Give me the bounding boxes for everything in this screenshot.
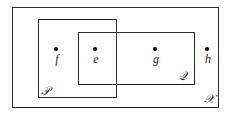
point-g-label: g [150,53,162,65]
set-p-label: 𝒫 [41,85,50,97]
point-f-label: f [51,53,63,65]
point-dot [153,47,157,51]
point-dot [205,47,209,51]
point-h-label: h [202,53,214,65]
set-q-label: 𝒬 [178,70,187,82]
point-e-label: e [90,53,102,65]
set-diagram: 𝒫 𝒬 𝒳 f e g h [0,0,232,115]
point-dot [93,47,97,51]
universe-set-label: 𝒳 [204,93,214,105]
point-dot [54,47,58,51]
